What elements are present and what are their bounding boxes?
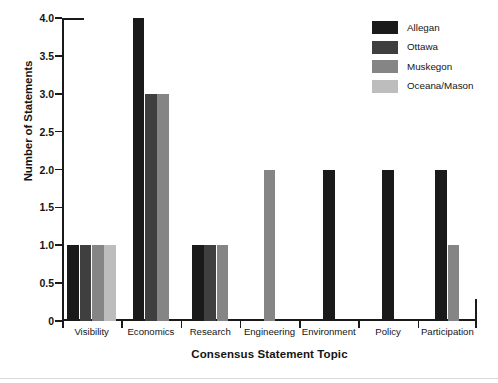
page-rule bbox=[0, 378, 498, 379]
legend-item: Allegan bbox=[372, 18, 494, 38]
y-tick-label: 3.0 bbox=[28, 89, 54, 99]
y-tick-label: 0.5 bbox=[28, 278, 54, 288]
y-tick-mark bbox=[55, 131, 62, 133]
bar bbox=[435, 170, 447, 322]
x-tick-label-policy: Policy bbox=[358, 326, 417, 338]
bar bbox=[133, 18, 145, 321]
y-tick-label: 3.5 bbox=[28, 51, 54, 61]
x-axis-tick-labels: VisibilityEconomicsResearchEngineeringEn… bbox=[62, 326, 477, 342]
y-tick-label: 1.5 bbox=[28, 202, 54, 212]
y-tick-mark bbox=[55, 207, 62, 209]
bar bbox=[92, 245, 104, 321]
y-tick-label: 2.0 bbox=[28, 165, 54, 175]
legend-label: Allegan bbox=[407, 22, 440, 34]
x-tick-label-visibility: Visibility bbox=[62, 326, 121, 338]
legend-label: Ottawa bbox=[407, 41, 438, 53]
legend-swatch bbox=[372, 80, 398, 93]
y-tick-mark bbox=[55, 93, 62, 95]
bar bbox=[382, 170, 394, 322]
y-tick-mark bbox=[55, 244, 62, 246]
x-tick-label-participation: Participation bbox=[418, 326, 477, 338]
legend: AlleganOttawaMuskegonOceana/Mason bbox=[372, 18, 494, 96]
legend-label: Oceana/Mason bbox=[407, 80, 473, 92]
x-tick-label-environment: Environment bbox=[299, 326, 358, 338]
y-tick-mark bbox=[55, 17, 62, 19]
legend-label: Muskegon bbox=[407, 61, 452, 73]
bar bbox=[323, 170, 335, 322]
y-tick-label: 1.0 bbox=[28, 240, 54, 250]
bar bbox=[104, 245, 116, 321]
x-tick-label-research: Research bbox=[181, 326, 240, 338]
y-tick-mark bbox=[55, 320, 62, 322]
y-tick-mark bbox=[55, 55, 62, 57]
bar bbox=[145, 94, 157, 321]
x-tick-label-economics: Economics bbox=[121, 326, 180, 338]
bar bbox=[204, 245, 216, 321]
bar bbox=[217, 245, 229, 321]
x-tick-label-engineering: Engineering bbox=[240, 326, 299, 338]
legend-item: Ottawa bbox=[372, 38, 494, 58]
y-tick-label: 0 bbox=[28, 316, 54, 326]
legend-item: Muskegon bbox=[372, 57, 494, 77]
bar bbox=[192, 245, 204, 321]
legend-swatch bbox=[372, 41, 398, 54]
bar bbox=[264, 170, 276, 322]
legend-swatch bbox=[372, 60, 398, 73]
y-tick-mark bbox=[55, 169, 62, 171]
y-axis-ticks: 00.51.01.52.02.53.03.54.0 bbox=[20, 0, 54, 383]
bar bbox=[448, 245, 460, 321]
x-axis-title: Consensus Statement Topic bbox=[62, 348, 477, 360]
legend-item: Oceana/Mason bbox=[372, 77, 494, 97]
y-tick-mark bbox=[55, 282, 62, 284]
legend-swatch bbox=[372, 21, 398, 34]
y-tick-label: 4.0 bbox=[28, 13, 54, 23]
bar bbox=[80, 245, 92, 321]
bar-chart-figure: Number of Statements 00.51.01.52.02.53.0… bbox=[0, 0, 498, 383]
y-tick-label: 2.5 bbox=[28, 127, 54, 137]
bar bbox=[67, 245, 79, 321]
bar bbox=[157, 94, 169, 321]
